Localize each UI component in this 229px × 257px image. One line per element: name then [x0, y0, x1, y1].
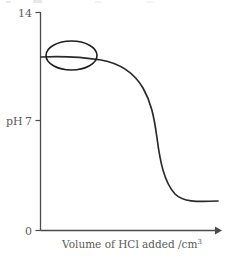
titration-curve-path [41, 57, 218, 202]
crop-artifact-marks [6, 0, 153, 3]
y-tick-label-14: 14 [18, 7, 32, 20]
x-axis-label-superscript: 3 [197, 238, 201, 246]
ph-titration-chart: 14 7 0 pH Volume of HCl added /cm3 [0, 0, 229, 257]
buffer-region-highlight-ellipse [46, 41, 97, 70]
x-axis-arrow-icon [215, 227, 222, 235]
chart-canvas: 14 7 0 pH Volume of HCl added /cm3 [0, 0, 229, 257]
x-axis-label: Volume of HCl added /cm3 [61, 238, 202, 250]
y-tick-label-0: 0 [25, 225, 32, 238]
y-axis-ticks [36, 13, 41, 231]
x-axis-label-text: Volume of HCl added /cm [61, 238, 197, 250]
y-axis-label: pH [6, 115, 23, 128]
y-tick-label-7: 7 [25, 115, 32, 128]
